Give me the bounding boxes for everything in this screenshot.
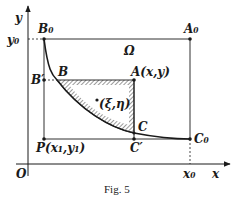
label-A: A(x,y) — [130, 65, 170, 79]
label-A0: A₀ — [183, 22, 199, 36]
label-C-prime: C′ — [130, 141, 144, 155]
region-omega-label: Ω — [123, 44, 135, 58]
x-axis-label: x — [211, 167, 220, 181]
figure-caption: Fig. 5 — [104, 183, 130, 195]
figure-canvas: y x O y₀ x₀ B₀ A₀ C₀ Ω B B′ A(x,y) C C′ … — [0, 0, 240, 203]
label-B0: B₀ — [37, 22, 54, 36]
label-C: C — [138, 120, 148, 134]
label-xi-eta: (ξ,η) — [99, 97, 130, 111]
y-axis-label: y — [14, 11, 23, 25]
point-B0 — [42, 37, 46, 41]
origin-label: O — [16, 167, 27, 181]
label-P: P(x₁,y₁) — [35, 141, 85, 155]
label-B: B — [57, 65, 68, 79]
y0-label: y₀ — [6, 33, 20, 47]
point-C — [133, 132, 136, 135]
label-C0: C₀ — [194, 132, 210, 146]
label-B-prime: B′ — [30, 73, 45, 87]
point-A0 — [188, 37, 192, 41]
x0-label: x₀ — [182, 167, 196, 181]
point-C0 — [188, 137, 192, 141]
